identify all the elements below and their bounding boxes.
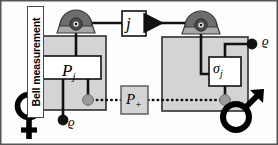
channel-j-label: j [126, 15, 131, 32]
sigma-j-label: σj [213, 62, 223, 79]
channel-arrowhead [146, 14, 162, 32]
p-j-label: Pj [62, 62, 75, 82]
bell-measurement-label-box: Bell measurement [27, 6, 44, 118]
rho-left-label: ϱ [68, 115, 75, 128]
teleportation-figure: Bell measurement Pj σj j P+ ϱ ϱ [0, 0, 278, 145]
sender-entangled-node [83, 95, 94, 106]
sender-rho-node [58, 115, 69, 126]
receiver-rho-node [247, 39, 258, 50]
receiver-detector-pupil-core [200, 24, 203, 27]
receiver-detector-icon [182, 11, 220, 34]
bell-detector-icon [57, 10, 95, 33]
p-plus-label: P+ [126, 92, 141, 110]
rho-right-label: ϱ [262, 34, 269, 47]
bell-detector-pupil-core [75, 23, 78, 26]
bell-measurement-label: Bell measurement [30, 18, 42, 107]
